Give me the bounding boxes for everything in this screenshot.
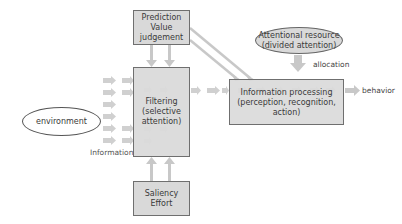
environment-label: environment: [36, 117, 87, 127]
prediction-to-processing-arrows: [190, 28, 250, 78]
allocation-label: allocation: [313, 60, 349, 69]
prediction-value-judgement-node: Prediction Value judgement: [133, 10, 190, 45]
information-label: Information: [90, 148, 133, 157]
behavior-arrow: [345, 85, 360, 96]
filtering-to-processing-arrows: [191, 86, 229, 95]
prediction-line1: Prediction: [140, 13, 183, 23]
behavior-label: behavior: [362, 86, 395, 95]
filtering-line1: Filtering: [142, 97, 182, 107]
saliency-to-filtering-arrows: [146, 157, 175, 181]
attentional-resource-node: Attentional resource (divided attention): [255, 27, 343, 54]
attentional-line1: Attentional resource: [258, 31, 339, 41]
prediction-to-filtering-arrows: [146, 45, 175, 67]
environment-node: environment: [22, 107, 101, 136]
prediction-line2: Value: [140, 23, 183, 33]
information-arrows: [103, 76, 134, 145]
filtering-line3: attention): [142, 117, 182, 127]
prediction-line3: judgement: [140, 33, 183, 43]
saliency-line2: Effort: [145, 199, 179, 209]
processing-line2: (perception, recognition, action): [230, 98, 343, 118]
saliency-effort-node: Saliency Effort: [133, 181, 190, 216]
allocation-arrow: [290, 55, 306, 72]
attentional-line2: (divided attention): [258, 41, 339, 51]
saliency-line1: Saliency: [145, 189, 179, 199]
filtering-line2: (selective: [142, 107, 182, 117]
processing-line1: Information processing: [230, 88, 343, 98]
information-processing-node: Information processing (perception, reco…: [229, 79, 344, 125]
filtering-node: Filtering (selective attention): [133, 67, 190, 157]
